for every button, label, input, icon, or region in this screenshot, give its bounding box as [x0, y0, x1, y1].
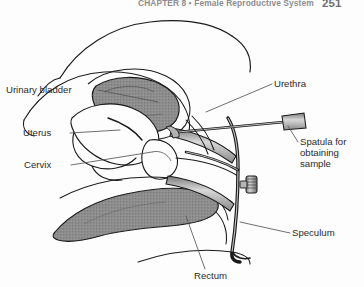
- leader-urethra: [206, 84, 272, 112]
- rectum: [53, 188, 218, 241]
- label-urinary-bladder: Urinary bladder: [6, 85, 72, 96]
- label-spatula: Spatula for obtaining sample: [300, 137, 362, 169]
- label-speculum: Speculum: [292, 228, 335, 239]
- figure-page: CHAPTER 8 ▪ Female Reproductive System 2…: [0, 0, 364, 287]
- label-uterus: Uterus: [23, 128, 51, 139]
- label-cervix: Cervix: [24, 160, 51, 171]
- label-rectum: Rectum: [194, 271, 227, 282]
- leader-speculum: [240, 222, 290, 233]
- speculum-thumbscrew: [240, 176, 257, 193]
- label-urethra: Urethra: [274, 79, 306, 90]
- cervix: [142, 140, 178, 180]
- leader-rectum: [186, 216, 205, 269]
